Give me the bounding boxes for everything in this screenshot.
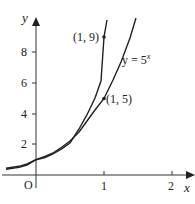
y-ticks (32, 52, 36, 144)
x-tick-label-1: 1 (101, 179, 107, 193)
x-ticks (104, 171, 172, 175)
annotation-point-1-5: (1, 5) (106, 92, 132, 106)
y-tick-label-6: 6 (21, 76, 27, 90)
annotation-point-1-9: (1, 9) (73, 30, 99, 44)
y-tick-label-8: 8 (21, 45, 27, 59)
origin-label: O (24, 178, 33, 192)
y-axis-arrow-icon (32, 17, 40, 26)
point-1-9 (102, 35, 106, 39)
x-axis-label: x (183, 180, 190, 195)
x-axis-arrow-icon (186, 171, 195, 179)
y-tick-label-4: 4 (21, 107, 27, 121)
annotation-curve-label: y = 5x (122, 52, 151, 67)
exponential-graph: y x 2 4 6 8 1 2 O (1, 9) (1, 5) y = 5x (0, 0, 195, 204)
x-tick-label-2: 2 (168, 179, 174, 193)
y-tick-label-2: 2 (21, 137, 27, 151)
y-axis-label: y (20, 10, 28, 25)
